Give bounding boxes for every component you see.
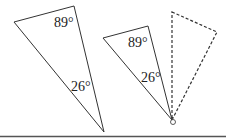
angle-label-26-copy: 26° (141, 70, 161, 85)
rotated-dashed-triangle (172, 12, 217, 120)
angle-label-89-original: 89° (54, 15, 74, 30)
angle-label-26-original: 26° (71, 79, 91, 94)
triangle-rotation-diagram: 89° 26° 89° 26° (0, 0, 226, 139)
rotation-center-point (171, 120, 176, 125)
angle-label-89-copy: 89° (128, 35, 148, 50)
